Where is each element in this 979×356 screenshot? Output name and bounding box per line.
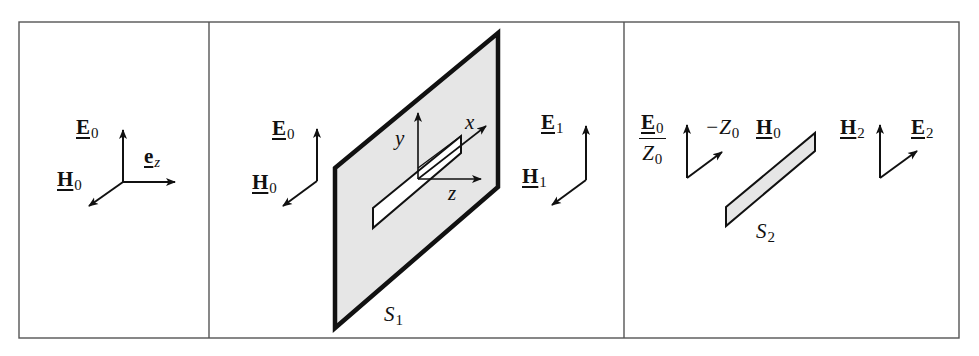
panel1-triad [89,130,175,206]
label-h0-incident: H0 [252,172,277,196]
label-ez: ez [144,146,160,170]
label-e0-over-z0: E0 Z0 [639,112,666,167]
label-axis-z: z [448,183,456,204]
label-h0-complementary: H0 [756,117,781,141]
babinet-principle-diagram: E0 ez H0 E0 H0 y x z S1 E1 H1 E0 Z0 −Z0 … [0,0,979,356]
strip-s2 [726,133,815,226]
diagram-graphics [0,0,979,356]
label-e1: E1 [541,112,564,136]
label-e2: E2 [911,117,934,141]
label-e0-incident: E0 [272,118,295,142]
label-h0: H0 [57,169,82,193]
label-s1: S1 [384,304,403,328]
label-h2: H2 [840,117,865,141]
screen-s1 [335,33,498,328]
label-e0: E0 [76,117,99,141]
label-s2: S2 [756,221,775,245]
label-axis-y: y [395,128,404,149]
h0-arrow-icon [89,182,123,206]
label-axis-x: x [465,112,474,133]
panel2-transmitted-triad [552,126,586,205]
label-h1: H1 [522,166,547,190]
label-minus-z0: −Z0 [705,117,739,141]
